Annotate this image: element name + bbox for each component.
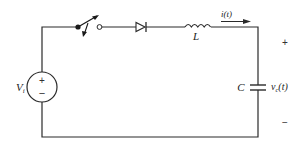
capacitor-label: C: [237, 81, 245, 93]
switch-arrow-icon: [92, 15, 99, 20]
inductor-label: L: [192, 30, 199, 42]
wire-left-top: [42, 27, 78, 72]
diode: [136, 22, 146, 32]
source-minus-sign: −: [39, 87, 45, 99]
wire-inductor-right: [211, 27, 258, 85]
circuit-diagram: + − Vi L i(t) C vc(t) + −: [0, 0, 305, 149]
output-plus-sign: +: [282, 37, 288, 48]
capacitor-voltage-label: vc(t): [271, 81, 288, 93]
source-label: Vi: [16, 81, 25, 95]
voltage-source: + −: [27, 72, 57, 102]
capacitor: [250, 85, 266, 90]
output-minus-sign: −: [282, 117, 288, 128]
wire-bottom: [42, 90, 258, 137]
switch: [75, 15, 102, 37]
current-arrow-icon: [221, 19, 251, 24]
inductor: [185, 25, 211, 28]
source-plus-sign: +: [39, 75, 45, 86]
current-label: i(t): [221, 9, 232, 19]
